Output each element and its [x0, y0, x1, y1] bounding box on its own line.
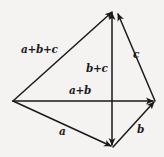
label-a-plus-b-plus-c: a+b+c — [21, 44, 58, 55]
vector-diagram-figure: a+b+c c b+c a+b a b — [0, 0, 164, 157]
label-b-plus-c: b+c — [86, 63, 108, 74]
vector-b-line — [113, 102, 154, 147]
label-a-plus-b: a+b — [69, 85, 91, 96]
label-c: c — [133, 49, 139, 60]
vector-a-line — [13, 101, 111, 146]
label-b: b — [137, 124, 144, 135]
label-a: a — [59, 126, 66, 137]
vector-a-plus-b-plus-c-line — [13, 12, 112, 101]
